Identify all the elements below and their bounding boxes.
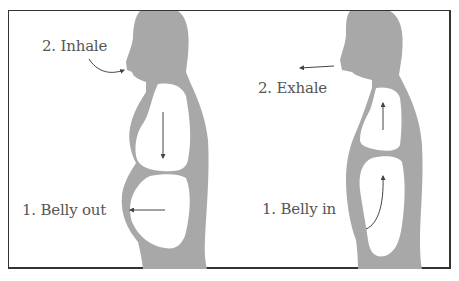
exhale-arrow-icon [300, 66, 334, 68]
right-figure-silhouette [340, 11, 423, 269]
left-figure-silhouette [122, 11, 209, 269]
belly-in-label: 1. Belly in [262, 200, 336, 218]
belly-out-label: 1. Belly out [22, 201, 106, 219]
inhale-label: 2. Inhale [42, 37, 107, 55]
exhale-label: 2. Exhale [258, 79, 327, 97]
inhale-arrow-icon [89, 59, 124, 72]
